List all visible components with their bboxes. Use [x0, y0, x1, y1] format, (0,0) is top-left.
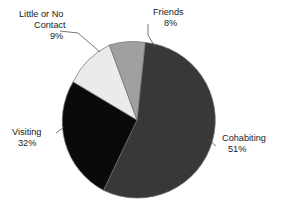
pie-chart-svg: Little or No Contact 9% Friends 8% Cohab… — [0, 0, 281, 209]
slice-label-visiting: Visiting — [12, 127, 41, 137]
slice-value-visiting: 32% — [18, 138, 36, 148]
slice-value-cohabiting: 51% — [228, 144, 246, 154]
slice-label-little-or-no-contact-line2: Contact — [34, 20, 66, 30]
slice-value-little-or-no-contact: 9% — [50, 31, 63, 41]
slice-label-cohabiting: Cohabiting — [222, 133, 266, 143]
slice-label-friends: Friends — [153, 7, 184, 17]
slice-label-little-or-no-contact-line1: Little or No — [19, 9, 63, 19]
pie-slices-group — [62, 41, 215, 198]
slice-value-friends: 8% — [164, 18, 177, 28]
pie-chart-figure: Little or No Contact 9% Friends 8% Cohab… — [0, 0, 281, 209]
